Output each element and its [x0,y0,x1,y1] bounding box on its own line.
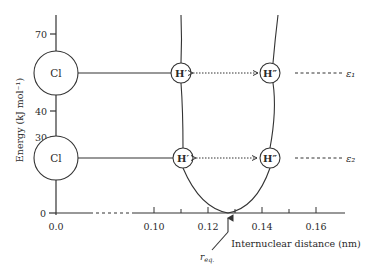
hydrogen-left-label: H′ [175,68,187,79]
x-tick-012: 0.12 [197,221,218,232]
level-label-epsilon-1: ε₁ [346,68,355,79]
chlorine-label: Cl [50,67,62,79]
level-label-epsilon-2: ε₂ [346,153,355,164]
x-tick-010: 0.10 [143,221,164,232]
x-tick-014: 0.14 [251,221,272,232]
x-axis: 0.0 0.10 0.12 0.14 0.16 Internuclear dis… [48,207,360,249]
x-tick-016: 0.16 [305,221,326,232]
hydrogen-left-label: H′ [177,153,189,164]
energy-level-1: Cl H′ H″ ε₁ [34,51,355,95]
energy-level-2: Cl H′ H″ ε₂ [34,136,355,180]
y-axis-label: Energy (kJ mol⁻¹) [14,78,25,162]
r-eq-label: req. [200,252,214,264]
hydrogen-right-label: H″ [263,153,277,164]
x-axis-label: Internuclear distance (nm) [231,238,360,249]
y-tick-40: 40 [35,106,47,117]
y-axis: 70 40 30 0 Energy (kJ mol⁻¹) [14,15,56,219]
potential-energy-diagram: 70 40 30 0 Energy (kJ mol⁻¹) 0.0 0.10 0.… [0,0,377,270]
leader-line [212,232,228,250]
y-tick-70: 70 [35,29,47,40]
hydrogen-right-label: H″ [263,68,277,79]
chlorine-label: Cl [50,152,62,164]
y-tick-0: 0 [40,208,46,219]
potential-curve [181,15,278,213]
x-tick-0: 0.0 [48,221,63,232]
